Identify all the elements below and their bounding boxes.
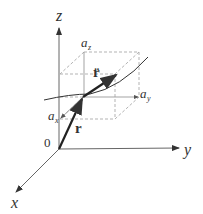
position-vector-label: r bbox=[75, 120, 82, 136]
ay-label: a y bbox=[140, 86, 151, 103]
acceleration-vector-label: r̈ bbox=[93, 64, 100, 80]
origin-label: 0 bbox=[44, 135, 51, 150]
vector-diagram: z y x 0 r r̈ a z a y a x bbox=[0, 0, 203, 214]
svg-text:a: a bbox=[81, 35, 88, 50]
ax-component-arrow bbox=[61, 97, 83, 118]
y-axis bbox=[59, 148, 179, 149]
svg-text:a: a bbox=[48, 108, 55, 123]
svg-text:a: a bbox=[140, 86, 147, 101]
svg-text:y: y bbox=[146, 94, 151, 103]
diagram-canvas: z y x 0 r r̈ a z a y a x bbox=[0, 0, 203, 214]
y-axis-label: y bbox=[182, 141, 192, 159]
x-axis bbox=[16, 149, 59, 192]
x-axis-label: x bbox=[10, 194, 18, 211]
z-axis-label: z bbox=[55, 7, 63, 24]
az-label: a z bbox=[81, 35, 92, 52]
svg-text:z: z bbox=[87, 43, 92, 52]
ax-label: a x bbox=[48, 108, 59, 125]
svg-text:x: x bbox=[54, 116, 59, 125]
